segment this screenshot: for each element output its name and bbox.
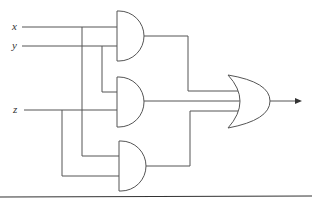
logic-circuit-diagram: x y z	[0, 0, 312, 204]
input-label-z: z	[12, 103, 18, 115]
wire-y-to-and2	[102, 46, 117, 92]
and-gate-3	[119, 141, 146, 191]
arrow-head-icon	[295, 98, 302, 104]
input-label-x: x	[11, 20, 17, 32]
and-gate-2	[117, 77, 144, 127]
and-gate-1	[117, 11, 144, 61]
wire-z-to-and3	[62, 110, 119, 176]
input-label-y: y	[11, 39, 17, 51]
bottom-rule	[0, 196, 312, 197]
